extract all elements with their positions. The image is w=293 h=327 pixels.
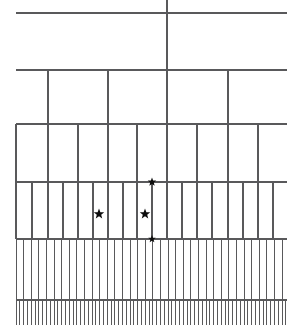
- star-marker: [148, 235, 156, 242]
- dendrogram-levels: [16, 0, 287, 325]
- dendrogram-markers: [94, 178, 157, 243]
- star-marker: [94, 209, 104, 219]
- star-marker: [140, 209, 150, 219]
- dendrogram-figure: [0, 0, 293, 327]
- dendrogram-canvas: [0, 0, 293, 327]
